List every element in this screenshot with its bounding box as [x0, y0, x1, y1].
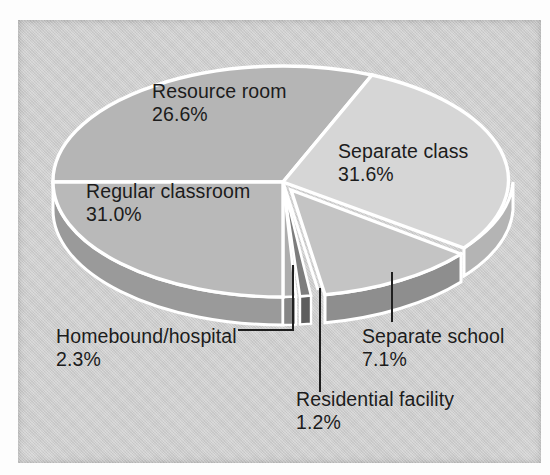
slice-label-residential-facility-name: Residential facility — [296, 388, 454, 410]
slice-label-resource-room: Resource room 26.6% — [152, 80, 287, 126]
slice-label-separate-class: Separate class 31.6% — [338, 140, 468, 186]
slice-label-residential-facility-pct: 1.2% — [296, 411, 454, 434]
pie-chart-plot — [0, 0, 550, 475]
slice-label-resource-room-name: Resource room — [152, 80, 287, 102]
slice-label-regular-classroom: Regular classroom 31.0% — [86, 180, 250, 226]
slice-label-separate-class-pct: 31.6% — [338, 163, 468, 186]
slice-label-separate-school-pct: 7.1% — [362, 348, 504, 371]
slice-label-separate-school-name: Separate school — [362, 325, 504, 347]
slice-label-homebound-hospital: Homebound/hospital 2.3% — [56, 325, 237, 371]
slice-label-residential-facility: Residential facility 1.2% — [296, 388, 454, 434]
pie-chart-figure: Resource room 26.6% Separate class 31.6%… — [0, 0, 550, 475]
slice-label-regular-classroom-name: Regular classroom — [86, 180, 250, 202]
slice-label-separate-class-name: Separate class — [338, 140, 468, 162]
slice-label-separate-school: Separate school 7.1% — [362, 325, 504, 371]
slice-label-regular-classroom-pct: 31.0% — [86, 203, 250, 226]
slice-side-residential-facility — [300, 296, 311, 325]
slice-label-homebound-hospital-name: Homebound/hospital — [56, 325, 237, 347]
slice-side-homebound-hospital — [283, 297, 296, 325]
slice-label-resource-room-pct: 26.6% — [152, 103, 287, 126]
slice-label-homebound-hospital-pct: 2.3% — [56, 348, 237, 371]
